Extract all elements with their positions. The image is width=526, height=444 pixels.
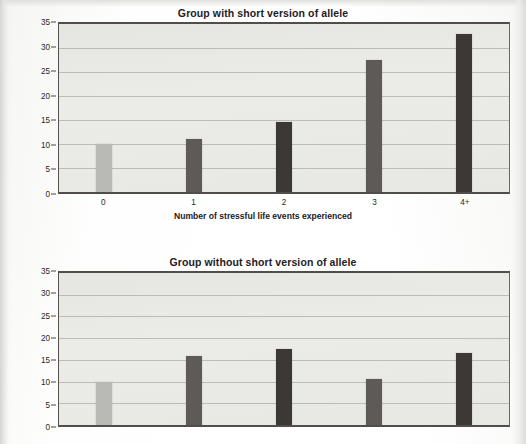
bar	[456, 34, 472, 192]
y-tick-mark	[51, 194, 56, 195]
y-axis-ticks-bottom: 05101520253035	[26, 271, 56, 427]
y-tick-label: 5	[26, 400, 50, 409]
y-tick-mark	[51, 315, 56, 316]
y-tick-mark	[51, 337, 56, 338]
y-tick-label: 35	[26, 267, 50, 276]
bar	[366, 60, 382, 192]
y-tick-label: 5	[26, 165, 50, 174]
plot-area-top: Major depression episode (%) 05101520253…	[0, 22, 526, 194]
x-tick-label: 2	[239, 194, 329, 210]
bar	[456, 353, 472, 425]
plot-canvas-bottom	[58, 271, 510, 427]
x-axis-ticks-top: 01234+	[58, 194, 510, 210]
y-tick-label: 20	[26, 91, 50, 100]
y-tick-mark	[51, 46, 56, 47]
y-tick-mark	[51, 22, 56, 23]
y-tick-mark	[51, 144, 56, 145]
bar-slot	[419, 24, 509, 192]
y-tick-mark	[51, 71, 56, 72]
bar-slot	[239, 273, 329, 425]
y-tick-label: 0	[26, 423, 50, 432]
y-tick-mark	[51, 95, 56, 96]
bar	[96, 144, 112, 192]
bar-slot	[59, 273, 149, 425]
y-tick-label: 20	[26, 333, 50, 342]
chart-panel-without-allele: Group without short version of allele Ma…	[0, 232, 526, 444]
bar-series-top	[59, 24, 509, 192]
scanned-page: Group with short version of allele Major…	[0, 0, 526, 444]
bar-slot	[149, 273, 239, 425]
x-tick-label: 3	[329, 194, 419, 210]
chart-title-top: Group with short version of allele	[0, 7, 526, 19]
y-tick-label: 25	[26, 67, 50, 76]
y-tick-mark	[51, 169, 56, 170]
x-tick-label: 1	[148, 194, 238, 210]
chart-panel-with-allele: Group with short version of allele Major…	[0, 0, 526, 232]
y-tick-label: 30	[26, 289, 50, 298]
y-tick-mark	[51, 293, 56, 294]
bar-slot	[329, 24, 419, 192]
y-tick-label: 15	[26, 356, 50, 365]
y-axis-ticks-top: 05101520253035	[26, 22, 56, 194]
y-tick-label: 10	[26, 378, 50, 387]
chart-title-bottom: Group without short version of allele	[0, 256, 526, 268]
y-tick-label: 0	[26, 190, 50, 199]
y-tick-mark	[51, 360, 56, 361]
y-tick-mark	[51, 271, 56, 272]
bar-slot	[149, 24, 239, 192]
y-tick-label: 35	[26, 18, 50, 27]
plot-canvas-top	[58, 22, 510, 194]
bar-slot	[59, 24, 149, 192]
y-tick-label: 10	[26, 140, 50, 149]
bar-series-bottom	[59, 273, 509, 425]
y-tick-label: 15	[26, 116, 50, 125]
x-axis-label-top: Number of stressful life events experien…	[0, 211, 526, 221]
x-axis-ticks-bottom	[58, 427, 510, 443]
bar-slot	[329, 273, 419, 425]
y-tick-mark	[51, 120, 56, 121]
y-tick-mark	[51, 427, 56, 428]
y-tick-label: 25	[26, 311, 50, 320]
y-tick-label: 30	[26, 42, 50, 51]
bar-slot	[419, 273, 509, 425]
plot-area-bottom: Major depression episode (%) 05101520253…	[0, 271, 526, 427]
y-tick-mark	[51, 382, 56, 383]
bar-slot	[239, 24, 329, 192]
bar	[276, 349, 292, 425]
x-tick-label: 4+	[420, 194, 510, 210]
bar	[366, 379, 382, 425]
bar	[276, 122, 292, 192]
bar	[186, 139, 202, 192]
y-tick-mark	[51, 404, 56, 405]
bar	[96, 382, 112, 425]
bar	[186, 356, 202, 425]
x-tick-label: 0	[58, 194, 148, 210]
